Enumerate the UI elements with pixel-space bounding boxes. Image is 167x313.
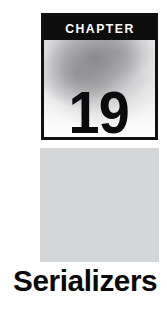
- chapter-number: 19: [69, 83, 129, 140]
- chapter-band-label: CHAPTER: [64, 22, 135, 35]
- chapter-title: Serializers: [13, 265, 165, 297]
- chapter-marker-box: CHAPTER 19: [41, 13, 158, 140]
- gray-panel: [40, 148, 159, 262]
- chapter-band: CHAPTER: [44, 16, 155, 40]
- chapter-opener-page: CHAPTER 19 Serializers: [0, 0, 167, 313]
